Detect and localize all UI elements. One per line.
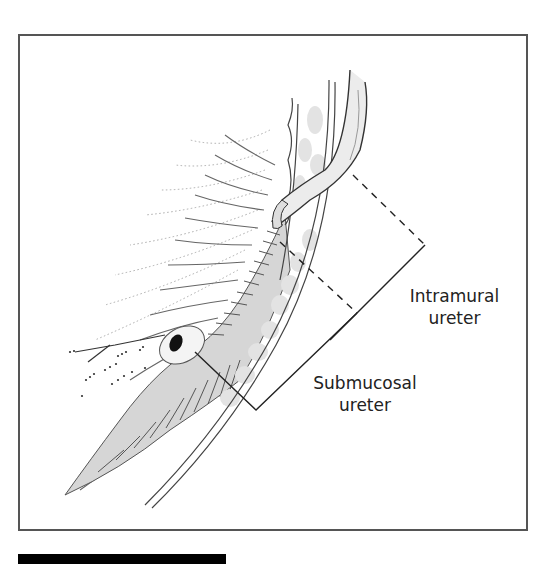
intramural-ureter-label: Intramural ureter bbox=[392, 285, 517, 329]
submucosal-ureter-label: Submucosal ureter bbox=[300, 372, 430, 416]
intramural-label-line2: ureter bbox=[392, 307, 517, 329]
footer-bar bbox=[18, 554, 226, 564]
submucosal-label-line1: Submucosal bbox=[300, 372, 430, 394]
submucosal-label-line2: ureter bbox=[300, 394, 430, 416]
dotted-marks bbox=[69, 346, 146, 397]
intramural-label-line1: Intramural bbox=[392, 285, 517, 307]
interureteric-lines bbox=[75, 335, 165, 362]
